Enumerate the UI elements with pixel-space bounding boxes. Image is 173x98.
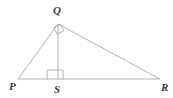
right-angle-mark-q — [54, 24, 64, 34]
segment-pq — [18, 24, 58, 79]
vertex-label-s: S — [54, 83, 60, 95]
vertex-label-r: R — [160, 81, 168, 93]
vertex-label-q: Q — [53, 4, 61, 16]
right-angle-mark-s — [47, 70, 63, 80]
geometry-figure: Q P S R — [0, 0, 173, 98]
vertex-label-p: P — [9, 80, 16, 92]
segment-qr — [58, 24, 160, 79]
geometry-canvas: Q P S R — [0, 0, 173, 98]
